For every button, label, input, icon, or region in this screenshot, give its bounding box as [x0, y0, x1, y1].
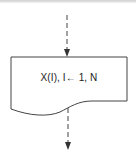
document-symbol [11, 57, 127, 115]
arrowhead-icon [64, 49, 70, 57]
document-label: X(I), I← 1, N [11, 72, 127, 83]
arrowhead-icon [65, 142, 71, 150]
incoming-flow-arrow [64, 15, 70, 57]
outgoing-flow-arrow [65, 108, 71, 150]
